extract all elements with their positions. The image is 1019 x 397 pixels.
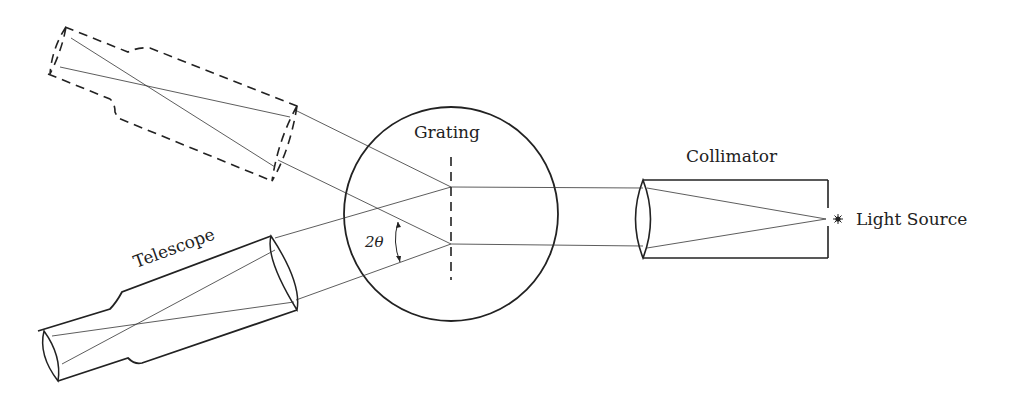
dashed-telescope-objective-lens: [272, 106, 297, 181]
diffracted-ray-lower-2: [296, 244, 451, 300]
telescope-label: Telescope: [131, 224, 218, 272]
collimator: [636, 180, 829, 258]
telescope-eyepiece-lens: [43, 331, 59, 381]
spectrometer-diagram: 2θ Grating Collimator Light Source Teles…: [0, 0, 1019, 397]
diffracted-ray-lower-1: [275, 187, 451, 238]
collimator-label: Collimator: [686, 146, 778, 166]
dashed-telescope-eyepiece-lens: [50, 27, 66, 74]
telescope-dashed: [48, 27, 302, 181]
angle-label: 2θ: [364, 233, 384, 251]
light-source-star-icon: [833, 214, 843, 224]
incident-ray-lower: [451, 244, 643, 246]
telescope-objective-lens: [270, 236, 298, 310]
grating-label: Grating: [414, 122, 480, 142]
diffracted-ray-upper-2: [278, 160, 451, 244]
incident-ray-upper: [451, 187, 643, 188]
light-source-label: Light Source: [856, 209, 967, 229]
